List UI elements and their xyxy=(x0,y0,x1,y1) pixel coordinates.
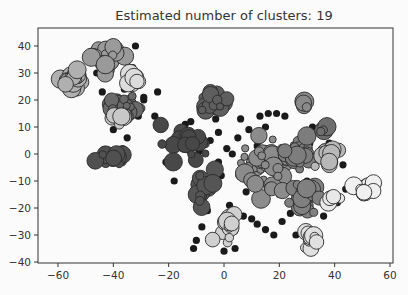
noise-point xyxy=(229,150,236,157)
noise-point xyxy=(273,110,280,117)
x-tick-label: 0 xyxy=(221,269,228,281)
core-sample xyxy=(278,144,292,158)
cluster-15 xyxy=(345,175,382,201)
border-sample xyxy=(258,152,266,160)
cluster-9 xyxy=(205,207,242,247)
core-sample xyxy=(185,137,199,151)
core-sample xyxy=(309,235,324,250)
y-tick-label: 30 xyxy=(18,67,31,79)
border-sample xyxy=(274,172,282,180)
core-sample xyxy=(68,61,86,79)
core-sample xyxy=(113,108,130,125)
cluster-1 xyxy=(51,61,89,98)
x-tick-label: −40 xyxy=(102,269,124,281)
noise-point xyxy=(320,213,327,220)
noise-point xyxy=(198,223,205,230)
x-tick-label: −60 xyxy=(47,269,69,281)
noise-point xyxy=(220,248,227,255)
y-tick-label: 10 xyxy=(18,121,31,133)
noise-point xyxy=(231,245,238,252)
border-sample xyxy=(196,172,204,180)
core-sample xyxy=(356,184,372,200)
noise-point xyxy=(154,88,161,95)
border-sample xyxy=(128,92,136,100)
y-tick-label: 20 xyxy=(18,94,31,106)
noise-point xyxy=(234,134,241,141)
noise-point xyxy=(132,42,139,49)
cluster-16 xyxy=(295,92,314,114)
y-tick-label: −10 xyxy=(9,175,31,187)
core-sample xyxy=(298,127,316,145)
core-sample xyxy=(58,76,74,92)
border-sample xyxy=(242,145,249,152)
core-sample xyxy=(204,174,222,192)
noise-point xyxy=(99,88,106,95)
core-sample xyxy=(321,153,338,170)
noise-point xyxy=(262,226,269,233)
y-axis: 403020100−10−20−30−40 xyxy=(9,40,38,268)
cluster-4 xyxy=(105,108,132,129)
noise-point xyxy=(254,221,261,228)
x-tick-label: −20 xyxy=(158,269,180,281)
core-sample xyxy=(164,153,182,171)
core-sample xyxy=(326,189,340,203)
border-sample xyxy=(310,208,318,216)
border-sample xyxy=(285,198,294,207)
border-sample xyxy=(198,106,206,114)
noise-point xyxy=(256,113,263,120)
border-sample xyxy=(317,128,325,136)
y-tick-label: −20 xyxy=(9,202,31,214)
cluster-6 xyxy=(153,117,209,171)
core-sample xyxy=(205,232,220,247)
noise-point xyxy=(215,129,222,136)
border-sample xyxy=(241,153,248,160)
core-sample xyxy=(96,55,114,73)
noise-point xyxy=(190,245,197,252)
core-sample xyxy=(153,117,168,132)
border-sample xyxy=(261,161,269,169)
x-tick-label: 40 xyxy=(328,269,341,281)
noise-point xyxy=(171,177,178,184)
cluster-13 xyxy=(298,223,324,256)
x-tick-label: 60 xyxy=(383,269,396,281)
noise-point xyxy=(265,110,272,117)
noise-point xyxy=(279,218,286,225)
border-sample xyxy=(225,233,234,242)
noise-point xyxy=(270,231,277,238)
figure: Estimated number of clusters: 19 −60−40−… xyxy=(0,0,408,295)
noise-point xyxy=(140,94,147,101)
border-sample xyxy=(216,103,223,110)
noise-point xyxy=(223,145,230,152)
y-tick-label: 40 xyxy=(18,40,31,52)
border-sample xyxy=(302,103,311,112)
noise-point xyxy=(248,215,255,222)
core-sample xyxy=(224,216,239,231)
border-sample xyxy=(195,196,204,205)
cluster-14 xyxy=(311,141,346,173)
border-sample xyxy=(158,140,166,148)
core-sample xyxy=(247,175,264,192)
cluster-7 xyxy=(197,84,234,119)
cluster-8 xyxy=(188,161,223,216)
y-tick-label: −30 xyxy=(9,229,31,241)
cluster-10 xyxy=(235,127,297,208)
noise-point xyxy=(237,115,244,122)
cluster-17 xyxy=(315,118,336,140)
scatter-chart: Estimated number of clusters: 19 −60−40−… xyxy=(0,0,408,295)
core-sample xyxy=(251,127,267,143)
core-sample xyxy=(130,74,144,88)
y-tick-label: 0 xyxy=(24,148,31,160)
y-tick-label: −40 xyxy=(9,256,31,268)
core-sample xyxy=(106,150,122,166)
x-axis: −60−40−200204060 xyxy=(47,263,397,281)
points-layer xyxy=(51,39,381,257)
noise-point xyxy=(124,134,131,141)
cluster-5 xyxy=(87,146,131,170)
x-tick-label: 20 xyxy=(273,269,286,281)
noise-point xyxy=(281,113,288,120)
cluster-2 xyxy=(120,64,146,92)
noise-point xyxy=(193,237,200,244)
border-sample xyxy=(269,136,276,143)
border-sample xyxy=(202,150,209,157)
noise-point xyxy=(187,118,194,125)
